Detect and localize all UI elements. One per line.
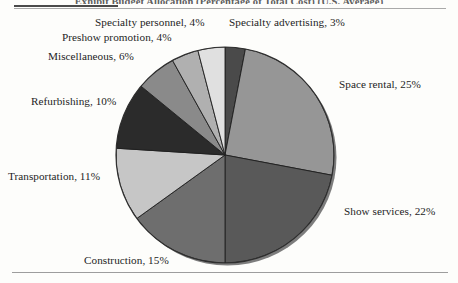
pie-chart-figure: Exhibit Budget Allocation (Percentage of… [0, 0, 458, 283]
pie-slice [225, 155, 332, 263]
label-construction: Construction, 15% [84, 254, 169, 266]
bottom-divider-rule [12, 272, 448, 273]
pie-slice [141, 60, 225, 155]
pie-slice [116, 86, 225, 155]
top-divider-rule [14, 8, 446, 9]
pie-slice [116, 148, 225, 218]
pie-slice [137, 155, 225, 263]
figure-caption-text: Exhibit Budget Allocation (Percentage of… [75, 0, 383, 4]
pie-slice [225, 49, 334, 175]
pie-slice-group [116, 47, 334, 263]
pie-outline [116, 47, 334, 263]
label-specialty-personnel: Specialty personnel, 4% [95, 16, 205, 28]
pie-slice [198, 47, 225, 155]
top-accent-rule [14, 5, 118, 7]
pie-slice [172, 50, 225, 155]
pie-shadow [119, 50, 337, 266]
label-refurbishing: Refurbishing, 10% [31, 95, 116, 107]
figure-caption: Exhibit Budget Allocation (Percentage of… [0, 0, 458, 4]
label-space-rental: Space rental, 25% [339, 78, 421, 90]
label-miscellaneous: Miscellaneous, 6% [48, 50, 134, 62]
label-show-services: Show services, 22% [344, 205, 435, 217]
pie-slice [225, 47, 245, 155]
label-transportation: Transportation, 11% [8, 170, 100, 182]
label-preshow-promotion: Preshow promotion, 4% [62, 31, 172, 43]
label-specialty-advertising: Specialty advertising, 3% [229, 16, 345, 28]
